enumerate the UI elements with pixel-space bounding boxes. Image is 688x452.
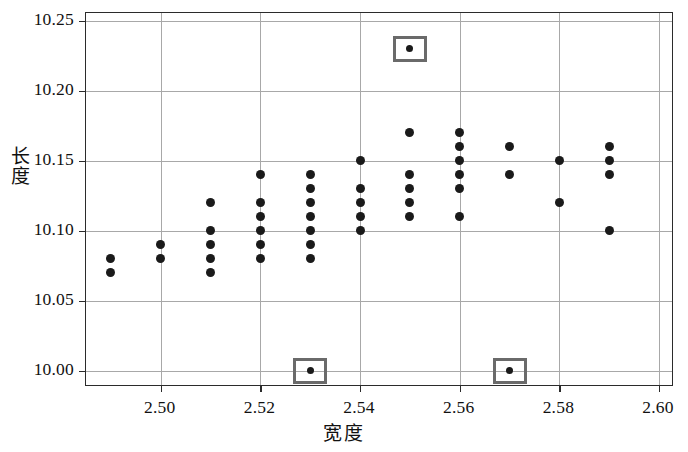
data-point xyxy=(455,170,464,179)
gridline-vertical xyxy=(460,13,461,385)
data-point xyxy=(106,254,115,263)
data-point xyxy=(455,212,464,221)
gridline-horizontal xyxy=(86,301,672,302)
y-tick-label: 10.05 xyxy=(0,291,74,309)
y-tick-mark xyxy=(79,371,86,372)
plot-area xyxy=(85,12,673,386)
data-point xyxy=(405,170,414,179)
data-point xyxy=(256,240,265,249)
data-point xyxy=(405,184,414,193)
scatter-plot-figure: 10.0010.0510.1010.1510.2010.25 2.502.522… xyxy=(0,0,688,452)
data-point xyxy=(156,254,165,263)
data-point xyxy=(206,198,215,207)
x-tick-mark xyxy=(260,385,261,392)
data-point xyxy=(206,240,215,249)
x-tick-mark xyxy=(659,385,660,392)
x-tick-mark xyxy=(161,385,162,392)
data-point xyxy=(356,198,365,207)
y-tick-mark xyxy=(79,301,86,302)
gridline-horizontal xyxy=(86,21,672,22)
data-point xyxy=(605,156,614,165)
data-point xyxy=(206,268,215,277)
data-point xyxy=(356,212,365,221)
x-tick-mark xyxy=(559,385,560,392)
data-point xyxy=(405,198,414,207)
data-point xyxy=(256,226,265,235)
data-point xyxy=(455,142,464,151)
data-point xyxy=(306,240,315,249)
y-tick-mark xyxy=(79,91,86,92)
y-tick-mark xyxy=(79,21,86,22)
gridline-horizontal xyxy=(86,91,672,92)
data-point xyxy=(256,170,265,179)
data-point xyxy=(505,170,514,179)
data-point xyxy=(206,226,215,235)
x-tick-label: 2.52 xyxy=(224,399,294,417)
data-point xyxy=(505,142,514,151)
y-tick-label: 10.20 xyxy=(0,81,74,99)
data-point xyxy=(356,184,365,193)
data-point xyxy=(256,198,265,207)
y-tick-label: 10.25 xyxy=(0,11,74,29)
data-point xyxy=(306,184,315,193)
data-point xyxy=(306,212,315,221)
data-point xyxy=(356,226,365,235)
y-axis-title: 长度 xyxy=(2,146,28,186)
data-point xyxy=(605,170,614,179)
x-axis-title: 宽度 xyxy=(0,418,688,445)
data-point xyxy=(605,226,614,235)
data-point xyxy=(455,184,464,193)
data-point xyxy=(405,212,414,221)
data-point xyxy=(306,226,315,235)
x-tick-label: 2.54 xyxy=(324,399,394,417)
data-point xyxy=(555,156,564,165)
gridline-horizontal xyxy=(86,161,672,162)
y-tick-mark xyxy=(79,161,86,162)
x-tick-mark xyxy=(360,385,361,392)
x-tick-label: 2.56 xyxy=(424,399,494,417)
data-point xyxy=(306,170,315,179)
gridline-vertical xyxy=(161,13,162,385)
data-point xyxy=(206,254,215,263)
gridline-horizontal xyxy=(86,371,672,372)
gridline-horizontal xyxy=(86,231,672,232)
data-point xyxy=(555,198,564,207)
x-tick-label: 2.60 xyxy=(623,399,688,417)
data-point xyxy=(256,254,265,263)
data-point xyxy=(356,156,365,165)
data-point xyxy=(256,212,265,221)
x-tick-mark xyxy=(460,385,461,392)
data-point xyxy=(455,128,464,137)
data-point xyxy=(605,142,614,151)
data-point xyxy=(106,268,115,277)
y-tick-mark xyxy=(79,231,86,232)
y-tick-label: 10.00 xyxy=(0,361,74,379)
data-point xyxy=(405,128,414,137)
data-point xyxy=(455,156,464,165)
y-tick-label: 10.10 xyxy=(0,221,74,239)
x-tick-label: 2.50 xyxy=(125,399,195,417)
data-point xyxy=(306,198,315,207)
gridline-vertical xyxy=(659,13,660,385)
data-point xyxy=(156,240,165,249)
data-point xyxy=(306,254,315,263)
x-tick-label: 2.58 xyxy=(523,399,593,417)
